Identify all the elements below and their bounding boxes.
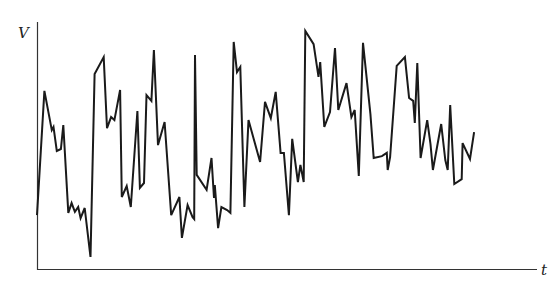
line-chart <box>0 0 558 295</box>
y-axis-label: V <box>18 24 29 42</box>
x-axis-label: t <box>541 261 547 279</box>
signal-line <box>37 31 474 257</box>
